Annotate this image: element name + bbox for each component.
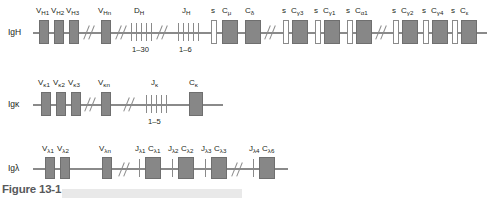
label-V-kn: Vκn — [98, 78, 110, 89]
segment-switch-epsilon — [452, 20, 458, 44]
label-J-H: JH — [182, 6, 190, 17]
segment-C-delta — [245, 20, 261, 44]
segment-J-l3 — [205, 159, 206, 177]
segment-J-H-tick — [183, 23, 184, 41]
label-switch-gamma4: s — [422, 6, 426, 15]
segment-C-gamma2 — [402, 20, 418, 44]
segment-J-l1 — [139, 159, 140, 177]
label-switch-mu: s — [211, 6, 215, 15]
segment-C-mu — [222, 20, 238, 44]
segment-switch-gamma2 — [393, 20, 399, 44]
segment-C-l1 — [145, 157, 161, 179]
segment-C-alpha1 — [356, 20, 372, 44]
label-C-mu: Cμ — [222, 6, 231, 17]
label-J-l2: Jλ2 — [168, 144, 179, 155]
figure-caption: Figure 13-1 — [2, 183, 61, 195]
label-J-k: Jκ — [151, 78, 158, 89]
label-J-l1: Jλ1 — [135, 144, 146, 155]
label-V-H3: VH3 — [66, 6, 79, 17]
label-V-k3: Vκ3 — [68, 78, 80, 89]
segment-J-l4 — [253, 159, 254, 177]
label-switch-gamma3: s — [282, 6, 286, 15]
segment-D-H-tick — [151, 23, 152, 41]
label-V-H1: VH1 — [36, 6, 49, 17]
label-V-k1: Vκ1 — [38, 78, 50, 89]
segment-V-H1 — [39, 20, 49, 44]
segment-V-l2 — [60, 157, 70, 179]
label-V-ln: Vλn — [99, 144, 111, 155]
segment-C-gamma4 — [432, 20, 448, 44]
segment-V-ln — [102, 157, 112, 179]
label-V-k2: Vκ2 — [53, 78, 65, 89]
caption-bar — [62, 189, 242, 198]
segment-J-H-tick — [198, 23, 199, 41]
row-label-iglambda: Igλ — [8, 163, 19, 173]
label-C-l2: Cλ2 — [181, 144, 193, 155]
segment-D-H-tick — [136, 23, 137, 41]
segment-D-H-tick — [141, 23, 142, 41]
segment-J-k-tick — [161, 95, 162, 113]
row-label-igk: Igκ — [8, 99, 19, 109]
label-switch-epsilon: s — [451, 6, 455, 15]
segment-V-k1 — [41, 92, 51, 116]
segment-C-gamma3 — [292, 20, 308, 44]
segment-V-k2 — [56, 92, 66, 116]
label-C-l1: Cλ1 — [148, 144, 160, 155]
segment-V-H2 — [54, 20, 64, 44]
label-C-gamma4: Cγ4 — [431, 6, 443, 17]
label-D-H: DH — [134, 6, 144, 17]
segment-J-k-tick — [146, 95, 147, 113]
segment-V-Hn — [101, 20, 111, 44]
row-label-igh: IgH — [8, 27, 21, 37]
segment-C-k — [189, 92, 203, 116]
segment-C-epsilon — [461, 20, 477, 44]
segment-J-k-tick — [166, 95, 167, 113]
label-V-l1: Vλ1 — [42, 144, 54, 155]
segment-switch-mu — [211, 20, 217, 44]
range-D-H: 1–30 — [132, 45, 149, 54]
label-switch-gamma1: s — [314, 6, 318, 15]
range-J-H: 1–6 — [179, 45, 192, 54]
label-C-gamma3: Cγ3 — [291, 6, 303, 17]
segment-V-k3 — [71, 92, 81, 116]
label-C-l6: Cλ6 — [262, 144, 274, 155]
segment-J-k-tick — [151, 95, 152, 113]
segment-C-gamma1 — [324, 20, 340, 44]
label-C-k: Cκ — [189, 78, 198, 89]
label-switch-gamma2: s — [392, 6, 396, 15]
segment-J-H-tick — [188, 23, 189, 41]
label-J-l3: Jλ3 — [201, 144, 212, 155]
label-C-alpha1: Cα1 — [355, 6, 368, 17]
segment-J-H-tick — [193, 23, 194, 41]
segment-D-H-tick — [146, 23, 147, 41]
label-V-Hn: VHn — [98, 6, 111, 17]
segment-C-l3 — [211, 157, 227, 179]
segment-C-l2 — [178, 157, 194, 179]
label-C-delta: Cδ — [245, 6, 254, 17]
segment-J-k-tick — [156, 95, 157, 113]
segment-D-H-tick — [131, 23, 132, 41]
segment-V-H3 — [69, 20, 79, 44]
figure-13-1: IgH VH1 VH2 VH3 VHn DH 1–30 JH 1–6 s — [0, 0, 487, 202]
segment-V-l1 — [45, 157, 55, 179]
segment-J-H-tick — [178, 23, 179, 41]
label-C-gamma1: Cγ1 — [323, 6, 335, 17]
label-V-H2: VH2 — [51, 6, 64, 17]
segment-switch-gamma3 — [283, 20, 289, 44]
range-J-k: 1–5 — [148, 117, 161, 126]
segment-switch-gamma1 — [315, 20, 321, 44]
segment-switch-gamma4 — [423, 20, 429, 44]
label-C-l3: Cλ3 — [214, 144, 226, 155]
label-C-gamma2: Cγ2 — [401, 6, 413, 17]
label-V-l2: Vλ2 — [57, 144, 69, 155]
segment-switch-alpha1 — [347, 20, 353, 44]
label-J-l4: Jλ4 — [249, 144, 260, 155]
label-switch-alpha1: s — [346, 6, 350, 15]
segment-J-l2 — [172, 159, 173, 177]
label-C-epsilon: Cε — [460, 6, 469, 17]
segment-C-l6 — [259, 157, 275, 179]
segment-V-kn — [101, 92, 111, 116]
